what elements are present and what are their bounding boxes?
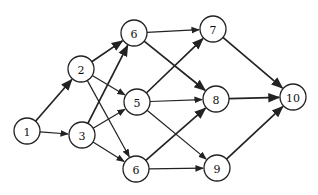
edge-5-to-8 [150,100,202,102]
node-n3: 3 [69,122,95,148]
node-label: 2 [78,64,85,77]
node-label: 10 [286,92,300,105]
node-n10: 10 [280,84,306,110]
node-n1: 1 [14,118,40,144]
directed-graph: 12365678910 [0,0,318,195]
node-label: 6 [133,164,140,177]
edge-9-to-10 [226,107,282,160]
edges-group [36,30,283,169]
edge-7-to-10 [223,37,282,88]
edge-3-to-5 [93,109,125,128]
node-n8: 8 [203,86,229,112]
nodes-group: 12365678910 [14,16,306,182]
edge-6-to-9 [149,168,203,169]
node-label: 7 [210,24,217,37]
node-label: 8 [213,94,220,107]
node-n9: 9 [204,155,230,181]
node-n2: 2 [68,56,94,82]
node-label: 1 [24,126,31,139]
edge-5-to-7 [146,39,203,93]
node-n7: 7 [200,16,226,42]
node-label: 5 [134,97,141,110]
edge-1-to-3 [40,132,68,134]
edge-2-to-6 [92,41,123,62]
edge-2-to-5 [92,76,125,95]
node-label: 9 [214,163,221,176]
node-n5: 5 [124,89,150,115]
edge-8-to-10 [229,97,279,98]
edge-6-to-7 [147,30,199,33]
node-n6b: 6 [123,156,149,182]
edge-1-to-2 [36,80,72,122]
node-n6a: 6 [121,20,147,46]
edge-3-to-6 [93,142,124,162]
node-label: 6 [131,28,138,41]
node-label: 3 [79,130,86,143]
